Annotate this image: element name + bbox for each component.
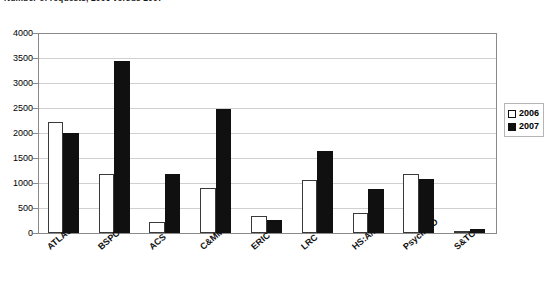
y-axis-tick-label: 3500	[13, 53, 33, 63]
bar-lrc-2007	[317, 151, 333, 233]
bar-chart: Number of requests, 2006 versus 2007 050…	[0, 0, 560, 282]
y-axis-tick-label: 1500	[13, 153, 33, 163]
chart-title: Number of requests, 2006 versus 2007	[4, 0, 163, 3]
bar-acs-2006	[149, 222, 165, 233]
bar-eric-2007	[267, 220, 283, 233]
legend-item-2007: 2007	[508, 120, 539, 133]
legend-label: 2007	[519, 122, 539, 131]
bar-atlas-2006	[48, 122, 64, 233]
bar-lrc-2006	[302, 180, 318, 234]
y-axis-tick-label: 1000	[13, 178, 33, 188]
bar-c-mmc-2007	[216, 109, 232, 234]
y-axis-tick-label: 2500	[13, 103, 33, 113]
bar-acs-2007	[165, 174, 181, 233]
bar-c-mmc-2006	[200, 188, 216, 233]
bar-bspc-2006	[99, 174, 115, 233]
y-axis-tick-label: 4000	[13, 28, 33, 38]
x-axis: ATLASBSPCACSC&MMCERICLRCHS:A/NPsycINFOS&…	[38, 234, 495, 282]
chart-legend: 2006 2007	[504, 103, 544, 137]
x-axis-tick-label: ACS	[147, 232, 168, 252]
y-axis-tick-label: 2000	[13, 128, 33, 138]
bar-bspc-2007	[114, 61, 130, 234]
legend-label: 2006	[519, 109, 539, 118]
bars-layer	[38, 33, 495, 233]
bar-psycinfo-2006	[403, 174, 419, 233]
x-axis-tick-label: ERIC	[249, 230, 272, 251]
bar-atlas-2007	[63, 133, 79, 233]
y-axis-tick-label: 500	[18, 203, 33, 213]
x-axis-tick-label: LRC	[299, 232, 320, 252]
legend-item-2006: 2006	[508, 107, 539, 120]
y-axis-tick-label: 3000	[13, 78, 33, 88]
open-square-swatch	[508, 110, 516, 118]
y-axis: 05001000150020002500300035004000	[0, 33, 33, 233]
filled-square-swatch	[508, 123, 516, 131]
